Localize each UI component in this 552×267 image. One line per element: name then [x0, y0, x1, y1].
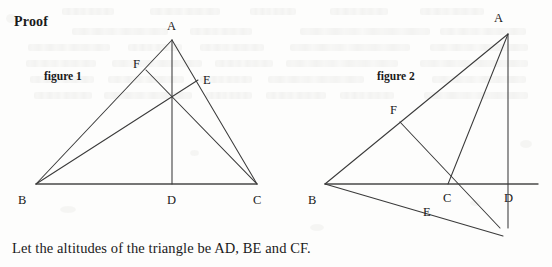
figure-2-label-e: E: [423, 206, 431, 219]
figure-2-diagram: [0, 0, 552, 250]
figure-2-label-f: F: [390, 104, 397, 117]
figure-2-label-d: D: [504, 192, 513, 205]
segment-ac: [448, 34, 508, 184]
figure-2-label-c: C: [443, 192, 451, 205]
scanned-page: Proof figure 1 A B C D E F figure 2: [0, 0, 552, 267]
figure-2-label-b: B: [308, 194, 316, 207]
segment-ab: [325, 34, 508, 184]
proof-body-text: Let the altitudes of the triangle be AD,…: [12, 240, 311, 257]
altitude-cf: [400, 122, 500, 228]
figure-2-label-a: A: [494, 12, 503, 25]
altitude-be: [325, 184, 503, 236]
